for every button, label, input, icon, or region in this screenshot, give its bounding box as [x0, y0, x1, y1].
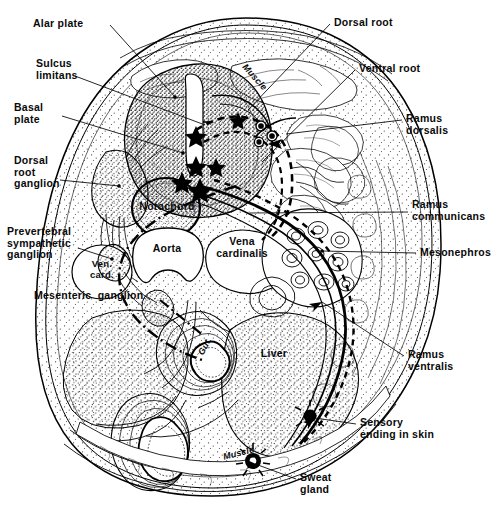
label-mesonephros: Mesonephros — [420, 247, 491, 259]
label-ramus-communicans: Ramus communicans — [412, 199, 485, 222]
label-sulcus-limitans: Sulcus limitans — [36, 58, 78, 81]
label-dorsal-root: Dorsal root — [334, 17, 393, 29]
label-ven-card: Ven. card. — [80, 259, 124, 280]
label-alar-plate: Alar plate — [33, 18, 83, 30]
label-dorsal-root-ganglion: Dorsal root ganglion — [14, 155, 60, 190]
label-aorta: Aorta — [143, 243, 191, 255]
label-notochord: Notochord — [131, 201, 203, 213]
figure-canvas: Alar plate Sulcus limitans Basal plate D… — [0, 0, 493, 522]
label-ramus-dorsalis: Ramus dorsalis — [406, 113, 448, 136]
label-mesenteric-ganglion: Mesenteric ganglion — [34, 290, 143, 302]
label-ramus-ventralis: Ramus ventralis — [408, 349, 453, 372]
label-liver: Liver — [252, 348, 296, 360]
label-ventral-root: Ventral root — [359, 63, 420, 75]
label-vena-cardinalis: Vena cardinalis — [213, 236, 271, 259]
label-basal-plate: Basal plate — [14, 102, 43, 125]
label-prevertebral-sympathetic-ganglion: Prevertebral sympathetic ganglion — [7, 226, 71, 261]
label-sensory-ending-in-skin: Sensory ending in skin — [360, 417, 434, 440]
label-sweat-gland: Sweat gland — [300, 472, 332, 495]
